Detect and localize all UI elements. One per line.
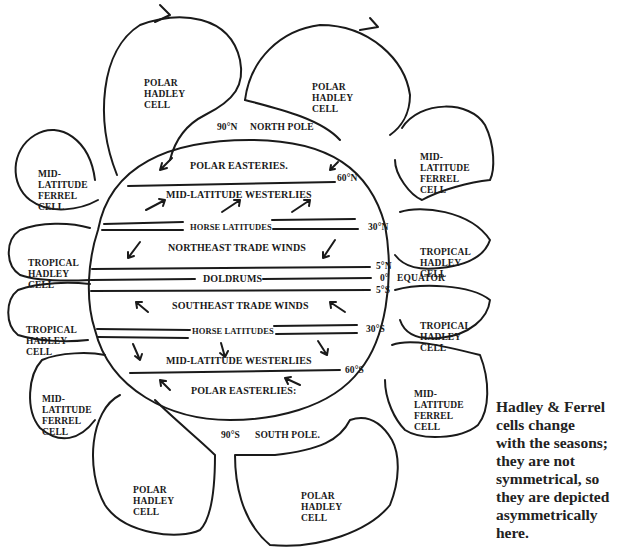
- band-doldrums: DOLDRUMS: [203, 273, 262, 284]
- lat-north-pole-label: NORTH POLE: [250, 122, 314, 133]
- lat-90n: 90°N: [217, 122, 238, 133]
- cell-label-w-north-ferrel: MID-LATITUDEFERRELCELL: [38, 147, 88, 224]
- cell-label-se-polar-hadley: POLARHADLEYCELL: [301, 469, 342, 535]
- band-northeast-trade-winds: NORTHEAST TRADE WINDS: [168, 242, 306, 253]
- note-line: Hadley & Ferrel: [496, 398, 625, 416]
- lat-5s: 5°S: [376, 285, 390, 296]
- lat-5n: 5°N: [376, 261, 392, 272]
- band-south-westerlies: MID-LATITUDE WESTERLIES: [166, 355, 312, 366]
- cell-label-e-south-ferrel: MID-LATITUDEFERRELCELL: [414, 367, 464, 444]
- lat-60n: 60°N: [337, 173, 358, 184]
- note-line: with the seasons;: [496, 434, 625, 452]
- cell-label-e-south-tropical: TROPICALHADLEYCELL: [420, 299, 471, 365]
- cell-label-sw-polar-hadley: POLARHADLEYCELL: [133, 463, 174, 529]
- cell-label-e-north-ferrel: MID-LATITUDEFERRELCELL: [420, 130, 470, 207]
- band-north-westerlies: MID-LATITUDE WESTERLIES: [166, 189, 312, 200]
- lat-south-pole-label: SOUTH POLE.: [255, 430, 320, 441]
- note-line: cells change: [496, 416, 625, 434]
- note-line: they are not: [496, 452, 625, 470]
- note-line: asymmetrically: [496, 506, 625, 524]
- band-south-polar-easterlies: POLAR EASTERLIES:: [191, 385, 296, 396]
- band-north-polar-easterlies: POLAR EASTERIES.: [190, 160, 288, 171]
- cell-label-w-south-ferrel: MID-LATITUDEFERRELCELL: [42, 372, 92, 449]
- note-line: here.: [496, 524, 625, 542]
- note-line: symmetrical, so: [496, 470, 625, 488]
- band-north-horse-latitudes: HORSE LATITUDES: [190, 222, 272, 233]
- band-south-horse-latitudes: HORSE LATITUDES: [192, 326, 274, 337]
- lat-30n: 30°N: [368, 222, 389, 233]
- asymmetry-note: Hadley & Ferrel cells change with the se…: [496, 398, 625, 542]
- cell-label-nw-polar-hadley: POLARHADLEYCELL: [144, 56, 185, 122]
- note-line: they are depicted: [496, 488, 625, 506]
- cell-label-w-north-tropical: TROPICALHADLEYCELL: [28, 236, 79, 302]
- cell-label-ne-polar-hadley: POLARHADLEYCELL: [312, 60, 353, 126]
- cell-label-w-south-tropical: TROPICALHADLEYCELL: [26, 303, 77, 369]
- band-southeast-trade-winds: SOUTHEAST TRADE WINDS: [172, 300, 309, 311]
- lat-90s: 90°S: [221, 430, 240, 441]
- lat-60s: 60°S: [345, 365, 364, 376]
- lat-0: 0°: [380, 273, 389, 284]
- lat-equator-label: EQUATOR: [397, 273, 445, 284]
- lat-30s: 30°S: [366, 324, 385, 335]
